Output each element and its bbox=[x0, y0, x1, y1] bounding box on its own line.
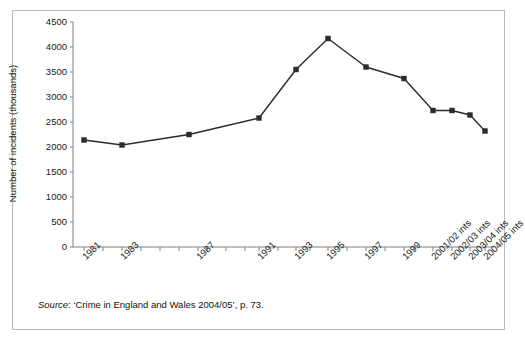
y-tick-label: 500 bbox=[11, 216, 67, 227]
data-point-marker bbox=[401, 76, 406, 81]
source-note-rest: : ‘Crime in England and Wales 2004/05’, … bbox=[68, 299, 264, 310]
data-point-marker bbox=[256, 115, 261, 120]
data-point-marker bbox=[325, 36, 330, 41]
y-tick-label: 1000 bbox=[11, 191, 67, 202]
y-axis-title: Number of incidents (thousands) bbox=[7, 59, 18, 209]
data-point-marker bbox=[449, 108, 454, 113]
y-tick-label: 0 bbox=[11, 241, 67, 252]
y-tick-label: 2000 bbox=[11, 141, 67, 152]
y-tick-label: 3000 bbox=[11, 91, 67, 102]
data-point-marker bbox=[482, 128, 487, 133]
y-tick-label: 2500 bbox=[11, 116, 67, 127]
data-point-marker bbox=[430, 108, 435, 113]
data-point-marker bbox=[81, 137, 86, 142]
data-point-marker bbox=[119, 142, 124, 147]
data-point-marker bbox=[186, 132, 191, 137]
y-tick-label: 4000 bbox=[11, 41, 67, 52]
source-note-prefix: Source bbox=[38, 299, 68, 310]
y-tick-label: 1500 bbox=[11, 166, 67, 177]
data-point-marker bbox=[363, 64, 368, 69]
data-point-marker bbox=[293, 67, 298, 72]
source-note: Source: ‘Crime in England and Wales 2004… bbox=[38, 299, 264, 310]
data-point-marker bbox=[467, 112, 472, 117]
y-tick-label: 3500 bbox=[11, 66, 67, 77]
y-tick-label: 4500 bbox=[11, 16, 67, 27]
